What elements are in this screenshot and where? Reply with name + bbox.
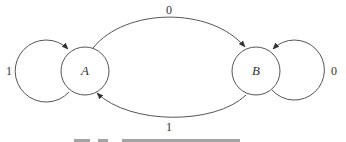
transition-a-to-b: 0 [93, 3, 245, 48]
caption-clipped [74, 139, 240, 142]
state-a: A [61, 47, 109, 95]
state-b-label: B [252, 63, 260, 78]
edge-b-to-a [97, 93, 246, 117]
self-loop-a: 1 [6, 40, 69, 102]
edge-a-to-b [93, 17, 245, 48]
state-a-label: A [80, 63, 89, 78]
edge-label-b-to-a: 1 [166, 120, 172, 134]
edge-label-a-to-a: 1 [6, 64, 12, 78]
transition-b-to-a: 1 [97, 93, 246, 134]
edge-label-a-to-b: 0 [166, 3, 172, 17]
edge-label-b-to-b: 0 [331, 64, 337, 78]
state-diagram: 1 0 0 1 A B [0, 0, 346, 142]
self-loop-b: 0 [272, 40, 337, 100]
state-b: B [232, 47, 280, 95]
